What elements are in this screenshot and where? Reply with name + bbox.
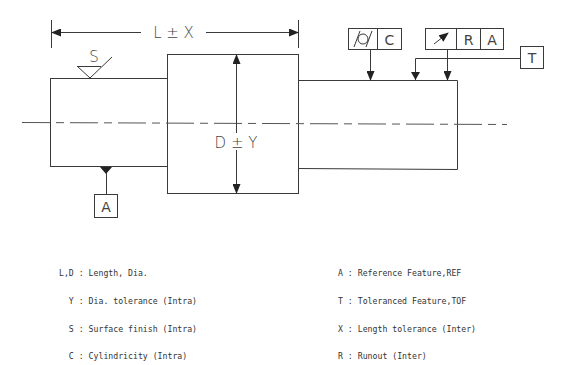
runout-value: R — [464, 32, 474, 48]
legend-item: X : Length tolerance (Inter) — [338, 325, 476, 334]
datum-feature-a: A — [95, 167, 118, 218]
right-shaft — [299, 81, 458, 170]
diameter-dimension: D ± Y — [215, 55, 258, 193]
cylindricity-value: C — [385, 32, 395, 48]
legend-item: Y : Dia. tolerance (Intra) — [59, 297, 197, 306]
runout-frame: R A — [426, 29, 504, 81]
legend-right: A : Reference Feature,REF T : Toleranced… — [338, 251, 476, 365]
cylindricity-frame: C — [349, 29, 402, 81]
toleranced-feature-t: T — [411, 47, 544, 81]
surface-finish-label: S — [89, 48, 99, 66]
cylindricity-icon — [354, 31, 372, 47]
legend-item: A : Reference Feature,REF — [338, 269, 476, 278]
runout-arrow-icon — [434, 33, 448, 44]
legend-item: L,D : Length, Dia. — [59, 269, 197, 278]
runout-datum: A — [487, 32, 497, 48]
length-dimension-label: L ± X — [153, 24, 194, 42]
length-dimension: L ± X — [52, 20, 299, 48]
legend-item: T : Toleranced Feature,TOF — [338, 297, 476, 306]
legend-item: C : Cylindricity (Intra) — [59, 352, 197, 361]
diameter-dimension-label: D ± Y — [215, 134, 258, 152]
centerline — [22, 123, 507, 125]
surface-finish-symbol: S — [77, 48, 112, 78]
toleranced-feature-label: T — [527, 50, 537, 66]
datum-label: A — [101, 199, 111, 215]
legend-item: S : Surface finish (Intra) — [59, 325, 197, 334]
legend-left: L,D : Length, Dia. Y : Dia. tolerance (I… — [59, 251, 197, 365]
legend-item: R : Runout (Inter) — [338, 352, 476, 361]
